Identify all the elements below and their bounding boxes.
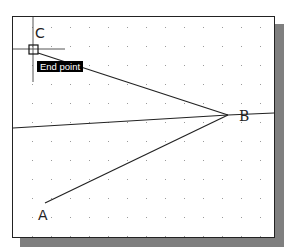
point-label-a: A — [38, 208, 48, 222]
point-label-b: B — [239, 109, 249, 123]
point-label-c: C — [35, 26, 45, 40]
line-horizontal[interactable] — [13, 115, 228, 128]
osnap-tooltip: End point — [37, 61, 83, 72]
grid-dots — [32, 27, 261, 237]
line-b-right[interactable] — [228, 113, 274, 115]
line-a-b[interactable] — [45, 115, 228, 203]
